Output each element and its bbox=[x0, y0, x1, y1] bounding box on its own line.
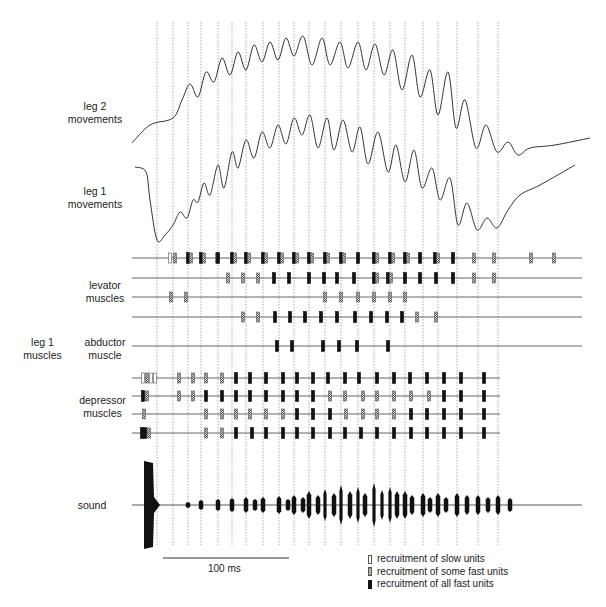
burst-all bbox=[264, 391, 267, 402]
burst-all bbox=[482, 409, 485, 420]
burst-some bbox=[376, 391, 379, 401]
burst-all bbox=[459, 409, 462, 420]
burst-all bbox=[141, 391, 144, 402]
burst-some bbox=[410, 391, 413, 401]
sound-burst bbox=[230, 498, 235, 512]
burst-all bbox=[204, 391, 207, 402]
burst-all bbox=[311, 428, 314, 439]
burst-all bbox=[409, 428, 412, 439]
burst-all bbox=[295, 373, 298, 384]
burst-all bbox=[451, 253, 454, 264]
burst-all bbox=[343, 428, 346, 439]
burst-all bbox=[359, 428, 362, 439]
sound-burst bbox=[286, 499, 291, 511]
sound-burst bbox=[508, 498, 513, 512]
burst-all bbox=[425, 409, 428, 420]
burst-all bbox=[281, 373, 284, 384]
label-line: abductor bbox=[70, 336, 140, 349]
burst-some bbox=[281, 253, 284, 263]
label-line: muscles bbox=[10, 349, 75, 362]
emg-row-levator bbox=[132, 273, 582, 284]
burst-all bbox=[385, 312, 388, 323]
sound-burst bbox=[465, 495, 470, 515]
burst-some bbox=[148, 428, 151, 438]
burst-all bbox=[295, 428, 298, 439]
burst-some bbox=[178, 391, 181, 401]
burst-some bbox=[311, 253, 314, 263]
sound-burst bbox=[428, 497, 433, 513]
label-line: leg 1 bbox=[50, 185, 140, 198]
burst-some bbox=[221, 428, 224, 438]
burst-all bbox=[357, 373, 360, 384]
sound-oscillogram bbox=[132, 461, 582, 549]
burst-all bbox=[451, 273, 454, 284]
emg-row-depressor bbox=[132, 391, 500, 402]
burst-all bbox=[321, 341, 324, 352]
burst-some bbox=[324, 292, 327, 302]
burst-some bbox=[282, 409, 285, 419]
burst-some bbox=[473, 253, 476, 263]
sound-burst bbox=[380, 490, 383, 520]
burst-some bbox=[203, 253, 206, 263]
burst-all bbox=[425, 428, 428, 439]
burst-all bbox=[335, 273, 338, 284]
burst-all bbox=[386, 273, 389, 284]
sound-burst bbox=[403, 491, 408, 519]
burst-all bbox=[275, 341, 278, 352]
burst-all bbox=[433, 253, 436, 264]
burst-some bbox=[249, 409, 252, 419]
burst-some bbox=[296, 253, 299, 263]
burst-all bbox=[307, 273, 310, 284]
burst-some bbox=[390, 273, 393, 283]
burst-all bbox=[230, 253, 233, 264]
burst-some bbox=[257, 273, 260, 283]
burst-some bbox=[376, 409, 379, 419]
burst-all bbox=[442, 428, 445, 439]
burst-all bbox=[352, 273, 355, 284]
burst-all bbox=[328, 428, 331, 439]
sound-burst bbox=[436, 493, 441, 517]
burst-all bbox=[143, 428, 146, 439]
burst-all bbox=[250, 428, 253, 439]
burst-all bbox=[311, 391, 314, 402]
label-line: leg 1 bbox=[10, 336, 75, 349]
label-leg1-movements: leg 1 movements bbox=[50, 185, 140, 211]
scale-bar-label: 100 ms bbox=[208, 563, 241, 574]
label-abductor-muscle: abductor muscle bbox=[70, 336, 140, 362]
label-line: movements bbox=[50, 113, 140, 126]
legend: recruitment of slow units recruitment of… bbox=[368, 553, 508, 591]
burst-all bbox=[307, 253, 310, 264]
burst-some bbox=[185, 292, 188, 302]
burst-all bbox=[353, 312, 356, 323]
burst-all bbox=[386, 341, 389, 352]
burst-all bbox=[375, 428, 378, 439]
legend-item-some-fast: recruitment of some fast units bbox=[368, 566, 508, 579]
burst-all bbox=[459, 428, 462, 439]
burst-some bbox=[192, 373, 195, 383]
burst-all bbox=[234, 428, 237, 439]
sound-burst bbox=[301, 497, 306, 513]
burst-all bbox=[311, 409, 314, 420]
burst-all bbox=[272, 273, 275, 284]
burst-some bbox=[242, 273, 245, 283]
label-line: leg 2 bbox=[50, 100, 140, 113]
burst-all bbox=[295, 391, 298, 402]
burst-some bbox=[343, 253, 346, 263]
burst-all bbox=[372, 273, 375, 284]
burst-all bbox=[337, 341, 340, 352]
burst-some bbox=[404, 292, 407, 302]
burst-all bbox=[482, 373, 485, 384]
burst-all bbox=[287, 273, 290, 284]
burst-all bbox=[326, 373, 329, 384]
burst-some bbox=[428, 391, 431, 401]
burst-slow bbox=[169, 253, 172, 263]
burst-all bbox=[264, 428, 267, 439]
burst-all bbox=[400, 312, 403, 323]
slow-units-swatch-icon bbox=[368, 555, 372, 564]
sound-burst bbox=[332, 493, 337, 517]
label-depressor-muscles: depressor muscles bbox=[65, 394, 140, 420]
sound-burst bbox=[348, 491, 353, 519]
burst-all bbox=[482, 391, 485, 402]
burst-all bbox=[199, 253, 202, 264]
burst-all bbox=[459, 373, 462, 384]
